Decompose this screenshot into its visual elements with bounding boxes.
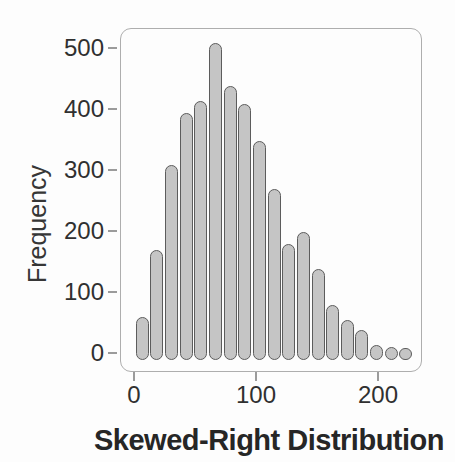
histogram-bar [370,345,383,360]
histogram-bar [297,232,310,360]
y-tick-label: 300 [40,157,104,183]
x-tick-mark [377,372,379,381]
histogram-bar [209,43,222,360]
histogram-bar [312,269,325,360]
histogram-figure: Frequency 0100200300400500 0100200 Skewe… [0,0,455,462]
histogram-bar [355,330,368,360]
y-tick-label: 100 [40,279,104,305]
y-tick-mark [108,108,117,110]
histogram-bar [253,141,266,361]
histogram-bar [341,320,354,360]
plot-area [120,28,422,372]
histogram-bar [194,101,207,360]
y-tick-label: 0 [40,340,104,366]
y-tick-label: 200 [40,218,104,244]
histogram-bar [180,113,193,360]
x-tick-label: 200 [338,382,418,408]
chart-title: Skewed-Right Distribution [94,424,444,457]
y-tick-mark [108,47,117,49]
y-tick-label: 500 [40,35,104,61]
histogram-bar [165,165,178,360]
y-tick-mark [108,352,117,354]
histogram-bar [385,347,398,360]
histogram-bar [136,317,149,360]
x-tick-label: 100 [216,382,296,408]
histogram-bar [282,244,295,360]
histogram-bar [150,250,163,360]
x-tick-label: 0 [94,382,174,408]
y-tick-mark [108,230,117,232]
histogram-bar [238,104,251,360]
histogram-bar [326,305,339,360]
y-tick-label: 400 [40,96,104,122]
histogram-bar [224,86,237,360]
y-tick-mark [108,169,117,171]
x-tick-mark [133,372,135,381]
y-tick-mark [108,291,117,293]
x-tick-mark [255,372,257,381]
histogram-bar [399,348,412,360]
histogram-bar [268,189,281,360]
